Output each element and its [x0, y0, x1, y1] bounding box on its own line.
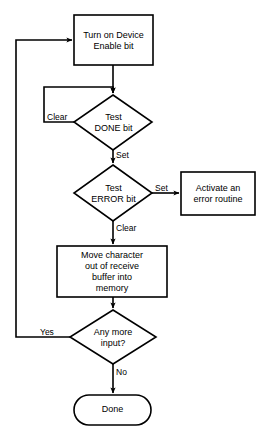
node-turn-on-device-shape [74, 15, 153, 65]
node-move-character-shape [57, 246, 167, 297]
flowchart-graphics [0, 0, 267, 435]
flowchart-canvas: Turn on Device Enable bit Test DONE bit … [0, 0, 267, 435]
node-test-error-shape [74, 165, 152, 221]
node-any-more-input-shape [70, 310, 156, 364]
node-activate-error-routine-shape [181, 172, 255, 215]
node-test-done-shape [74, 95, 152, 150]
node-done-shape [74, 395, 151, 425]
